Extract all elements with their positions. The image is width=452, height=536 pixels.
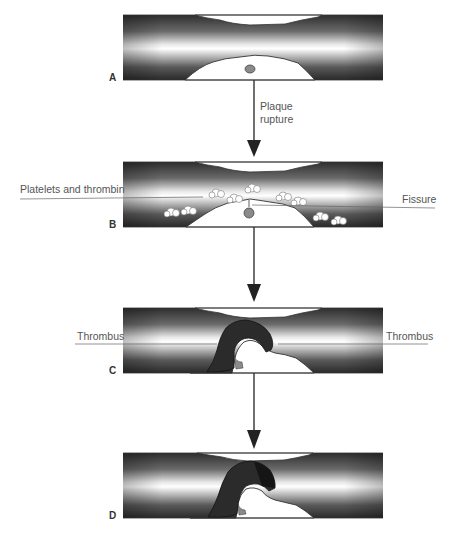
lipid-core-icon <box>245 65 255 73</box>
vessel-panel-d <box>123 453 383 518</box>
plaque-rupture-line2: rupture <box>260 113 293 126</box>
panel-label-d: D <box>109 510 116 521</box>
diagram-canvas <box>0 0 452 536</box>
thrombus-left-label: Thrombus <box>77 330 124 343</box>
vessel-panel-b <box>123 162 383 227</box>
vessel-panel-a <box>123 15 383 80</box>
panel-label-b: B <box>109 219 116 230</box>
platelets-thrombin-label: Platelets and thrombin <box>20 183 124 196</box>
arrow-c-to-d <box>247 373 261 449</box>
plaque-rupture-label: Plaque rupture <box>260 100 293 126</box>
vessel-panel-c <box>123 308 383 373</box>
arrow-b-to-c <box>247 227 261 302</box>
arrow-a-to-b <box>247 80 261 157</box>
plaque-rupture-line1: Plaque <box>260 100 293 113</box>
fissure-label: Fissure <box>402 193 436 206</box>
panel-label-a: A <box>109 72 116 83</box>
lipid-core-icon <box>244 208 254 218</box>
panel-label-c: C <box>109 365 116 376</box>
thrombus-right-label: Thrombus <box>386 330 433 343</box>
